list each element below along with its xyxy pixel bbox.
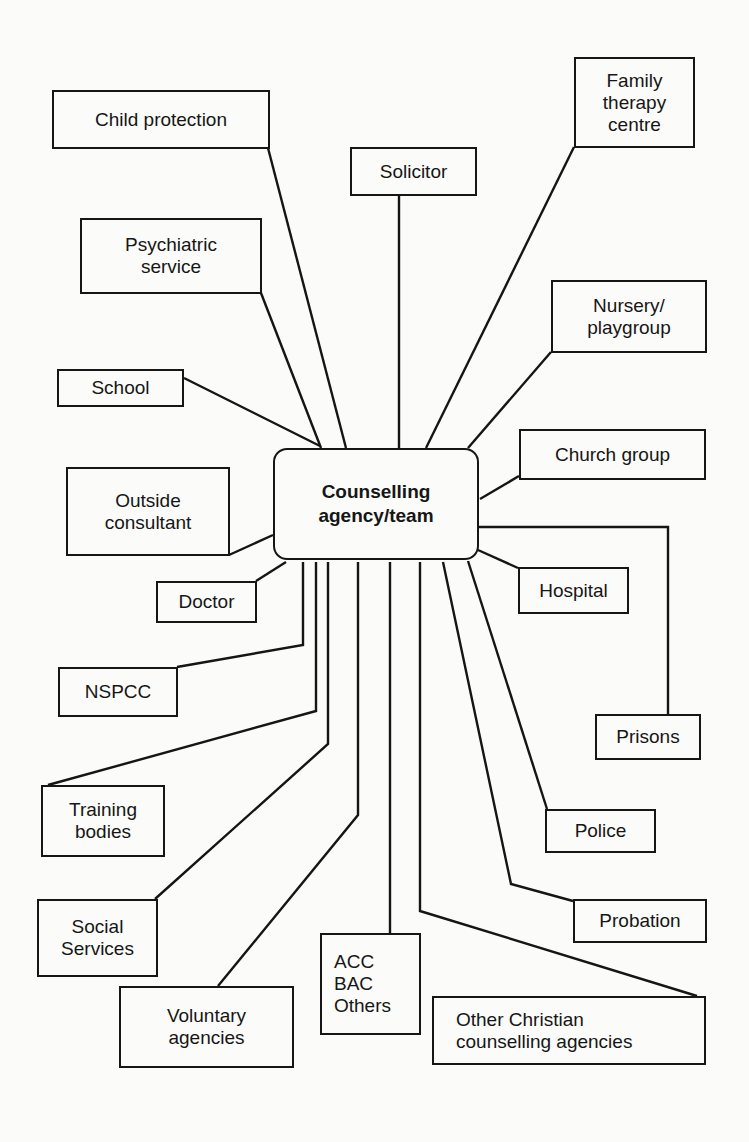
node-doctor: Doctor [156,581,257,623]
connector-hospital [478,550,518,568]
node-prisons: Prisons [595,714,701,760]
connector-voluntary-agencies [218,562,358,986]
node-probation: Probation [573,899,707,943]
node-other-christian-counselling-agencies: Other Christian counselling agencies [432,996,706,1065]
node-nspcc: NSPCC [58,667,178,717]
node-child-protection: Child protection [52,90,270,149]
node-social-services: Social Services [37,899,158,977]
node-solicitor: Solicitor [350,147,477,196]
node-school: School [57,369,184,407]
connector-child-protection [268,148,346,448]
node-nursery-playgroup: Nursery/ playgroup [551,280,707,353]
connector-church-group [480,476,519,499]
node-hospital: Hospital [518,567,629,614]
node-psychiatric-service: Psychiatric service [80,218,262,294]
node-training-bodies: Training bodies [41,785,165,857]
node-voluntary-agencies: Voluntary agencies [119,986,294,1068]
node-police: Police [545,809,656,853]
node-church-group: Church group [519,429,706,480]
connector-doctor [256,562,286,581]
node-outside-consultant: Outside consultant [66,467,230,556]
node-family-therapy-centre: Family therapy centre [574,57,695,148]
connector-outside-consultant [229,535,273,555]
node-acc-bac-others: ACC BAC Others [320,933,421,1035]
connector-school [184,378,320,446]
center-node-counselling-agency: Counselling agency/team [273,448,479,560]
